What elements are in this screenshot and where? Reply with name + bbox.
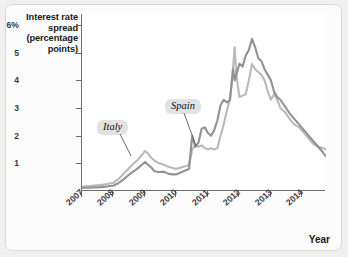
line-series-spain [82,39,326,188]
y-tick-mark [76,108,82,109]
series-callout-spain: Spain [165,99,201,114]
y-axis-title-line-3: (percentage [6,33,78,44]
chart-figure: Interest rate spread (percentage points)… [0,0,348,257]
y-tick-mark [76,25,82,26]
y-tick-mark [76,163,82,164]
x-axis-title: Year [309,234,330,245]
line-series-italy [82,47,326,187]
y-tick-mark [76,53,82,54]
series-callout-italy: Italy [97,120,128,135]
y-tick-mark [76,80,82,81]
series-lines-svg [82,14,326,191]
plot-area [81,14,325,191]
y-tick-mark [76,136,82,137]
